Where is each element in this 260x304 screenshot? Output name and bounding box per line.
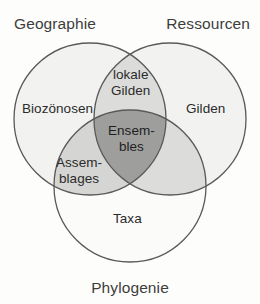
outer-label-ressourcen: Ressourcen [166,16,250,32]
region-label-biozoenosen: Biozönosen [22,101,93,117]
region-label-lokale-gilden: lokale Gilden [111,67,150,99]
region-label-assemblages-line1: Assem- [56,155,102,171]
region-label-lokale-gilden-line1: lokale [111,67,150,83]
region-label-ensembles-line1: Ensem- [108,123,155,139]
region-label-ensembles: Ensem- bles [108,123,155,155]
region-label-assemblages: Assem- blages [56,155,102,187]
region-label-assemblages-line2: blages [56,171,102,187]
region-label-ensembles-line2: bles [108,139,155,155]
outer-label-phylogenie: Phylogenie [91,280,169,296]
outer-label-geographie: Geographie [14,16,96,32]
region-label-lokale-gilden-line2: Gilden [111,83,150,99]
region-label-gilden: Gilden [186,101,225,117]
venn-diagram-figure: Geographie Ressourcen Phylogenie Biozöno… [0,0,260,304]
region-label-taxa: Taxa [113,211,142,227]
